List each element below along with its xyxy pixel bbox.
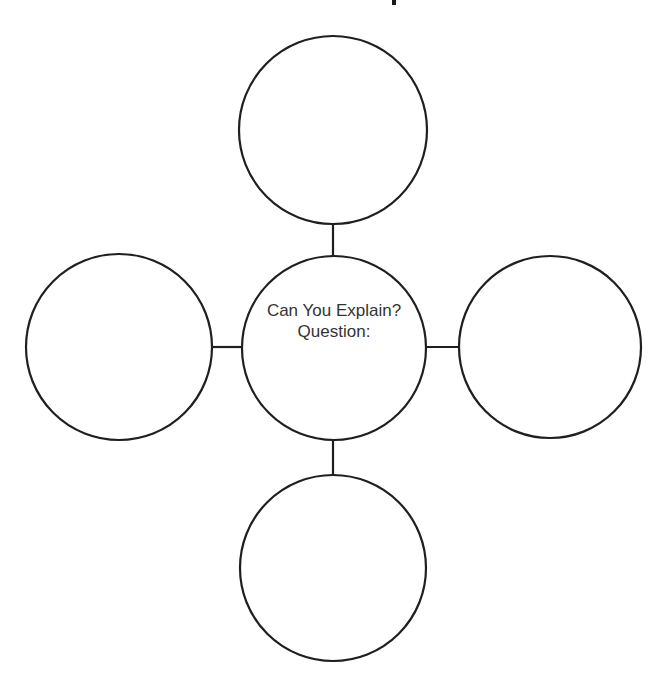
circle-top[interactable] <box>239 36 427 224</box>
center-title: Can You Explain? <box>242 300 426 321</box>
center-question-label: Question: <box>242 321 426 342</box>
concept-map <box>0 0 667 687</box>
circle-center[interactable] <box>242 256 426 440</box>
circle-right[interactable] <box>459 256 641 438</box>
center-node-label: Can You Explain? Question: <box>242 300 426 342</box>
circle-left[interactable] <box>26 254 212 440</box>
circle-bottom[interactable] <box>240 475 426 661</box>
